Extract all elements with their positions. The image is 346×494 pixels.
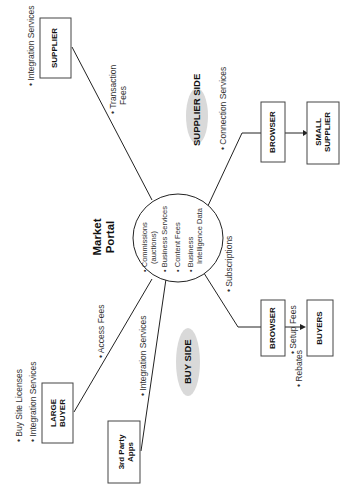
- transaction-fees-line1: Transaction: [108, 65, 118, 109]
- transaction-fees-label: Transaction Fees: [108, 65, 128, 114]
- arrowhead-buyers: [300, 324, 306, 330]
- large-buyer-note-integration-services: Integration Services: [28, 362, 38, 442]
- portal-item-business-intelligence: Business Intelligence Data: [186, 208, 204, 272]
- transaction-fees-line2: Fees: [118, 65, 128, 114]
- commissions-line1: Commissions: [140, 222, 149, 267]
- browser-buyer-label: BROWSER: [268, 304, 277, 352]
- buyers-label: BUYERS: [315, 304, 324, 352]
- commissions-line2: (auctions): [149, 222, 158, 272]
- portal-item-content-fees: Content Fees: [173, 222, 182, 272]
- rebates-label: Rebates: [294, 350, 304, 387]
- integration-services-3p-label: Integration Services: [138, 316, 148, 396]
- supplier-side-label: SUPPLIER SIDE: [191, 74, 202, 146]
- browser-supplier-label: BROWSER: [268, 110, 277, 154]
- supplier-note-integration-services: Integration Services: [26, 6, 36, 86]
- supplier-label: SUPPLIER: [50, 26, 59, 70]
- third-party-apps-label: 3rd Party Apps: [117, 428, 135, 476]
- portal-item-commissions: Commissions (auctions): [140, 222, 158, 272]
- large-buyer-line1: LARGE: [49, 390, 58, 436]
- third-party-line2: Apps: [126, 428, 135, 476]
- small-supplier-line2: SUPPLIER: [323, 106, 332, 158]
- large-buyer-line2: BUYER: [58, 390, 67, 436]
- connection-services-label: Connection Services: [218, 67, 228, 150]
- portal-item-business-services: Business Services: [160, 206, 169, 272]
- setup-fees-label: Setup Fees: [288, 305, 298, 354]
- market-portal-title-line2: Portal: [104, 212, 117, 262]
- edge-portal-browser-supplier: [206, 133, 263, 210]
- small-supplier-line1: SMALL: [314, 106, 323, 158]
- access-fees-label: Access Fees: [96, 304, 106, 358]
- buy-side-label: BUY SIDE: [182, 339, 193, 384]
- subscriptions-label: Subscriptions: [224, 236, 234, 292]
- market-portal-title-line1: Market: [91, 212, 104, 262]
- business-intelligence-line1: Business: [186, 237, 195, 267]
- large-buyer-label: LARGE BUYER: [49, 390, 67, 436]
- business-intelligence-line2: Intelligence Data: [195, 208, 204, 272]
- third-party-line1: 3rd Party: [117, 428, 126, 476]
- market-portal-title: Market Portal: [91, 212, 117, 262]
- large-buyer-note-buy-site-licenses: Buy Site Licenses: [14, 369, 24, 442]
- small-supplier-label: SMALL SUPPLIER: [314, 106, 332, 158]
